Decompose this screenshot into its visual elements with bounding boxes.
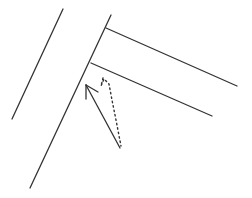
main-wall-line [30, 15, 111, 188]
left-wall-outer-line [12, 9, 63, 119]
sketch-diagram [0, 0, 252, 198]
corridor-top-line [106, 28, 237, 86]
corridor-bottom-line [91, 63, 212, 116]
dotted-trail [101, 78, 121, 146]
